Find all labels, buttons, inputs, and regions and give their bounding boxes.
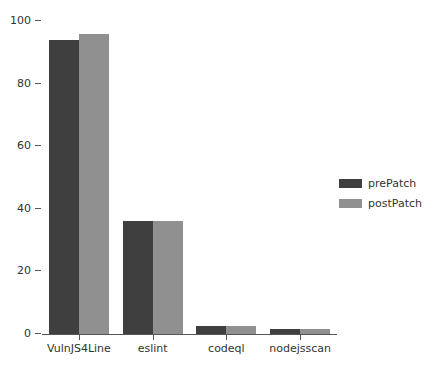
legend-item-prePatch[interactable]: prePatch	[339, 175, 434, 192]
bar-prePatch-VulnJS4Line	[49, 40, 79, 334]
x-axis-tick-mark	[153, 335, 154, 340]
y-axis-ticks: 020406080100	[0, 0, 42, 372]
x-axis-tick-mark	[300, 335, 301, 340]
y-axis-tick-label: 40	[17, 202, 31, 216]
legend-label-prePatch: prePatch	[368, 175, 416, 192]
y-axis-tick-label: 100	[10, 14, 31, 28]
bar-chart-figure: 020406080100 VulnJS4Lineeslintcodeqlnode…	[0, 0, 436, 372]
chart-legend: prePatchpostPatch	[339, 175, 434, 215]
x-axis-tick-label: codeql	[208, 342, 245, 355]
y-axis-tick-label: 0	[24, 327, 31, 341]
y-axis-tick-mark	[35, 208, 41, 209]
y-axis-tick-label: 60	[17, 139, 31, 153]
y-axis-tick: 100	[0, 14, 42, 28]
bar-postPatch-codeql	[226, 326, 256, 334]
y-axis-tick: 80	[0, 77, 42, 91]
y-axis-tick-mark	[35, 83, 41, 84]
x-axis-tick-mark	[226, 335, 227, 340]
bar-prePatch-codeql	[196, 326, 226, 334]
y-axis-tick-label: 20	[17, 264, 31, 278]
bar-postPatch-VulnJS4Line	[79, 34, 109, 334]
y-axis-tick-mark	[35, 333, 41, 334]
y-axis-tick: 0	[0, 327, 42, 341]
legend-item-postPatch[interactable]: postPatch	[339, 195, 434, 212]
x-axis-tick-label: eslint	[138, 342, 168, 355]
legend-label-postPatch: postPatch	[368, 195, 422, 212]
bar-prePatch-nodejsscan	[270, 329, 300, 334]
x-axis-tick-mark	[79, 335, 80, 340]
x-axis-tick-label: nodejsscan	[269, 342, 331, 355]
y-axis-tick-mark	[35, 145, 41, 146]
y-axis-tick-label: 80	[17, 77, 31, 91]
legend-swatch-prePatch	[339, 179, 362, 188]
x-axis-tick-label: VulnJS4Line	[47, 342, 111, 355]
y-axis-tick-mark	[35, 270, 41, 271]
y-axis-tick: 20	[0, 264, 42, 278]
y-axis-tick: 40	[0, 202, 42, 216]
bar-postPatch-eslint	[153, 221, 183, 334]
y-axis-tick: 60	[0, 139, 42, 153]
bar-postPatch-nodejsscan	[300, 329, 330, 334]
plot-area	[42, 21, 337, 334]
bar-prePatch-eslint	[123, 221, 153, 334]
legend-swatch-postPatch	[339, 199, 362, 208]
x-axis-line	[42, 334, 337, 335]
y-axis-tick-mark	[35, 20, 41, 21]
